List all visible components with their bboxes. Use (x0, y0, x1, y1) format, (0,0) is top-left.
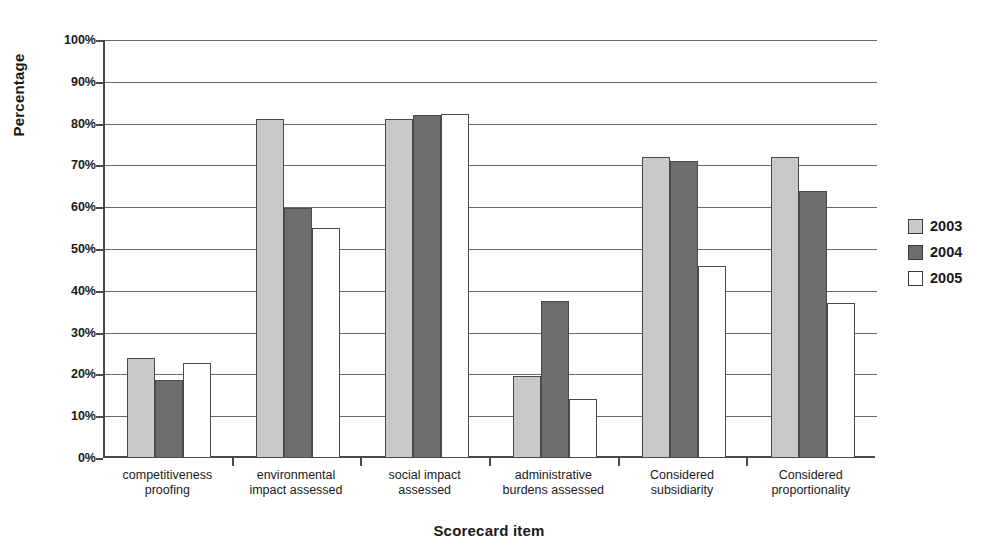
bar-2004-5 (799, 191, 827, 458)
y-axis-tick-label: 50% (42, 242, 96, 256)
bar-2005-0 (183, 363, 211, 458)
bar-2004-3 (541, 301, 569, 458)
legend-item-label: 2005 (930, 270, 962, 286)
y-axis-tick-label: 70% (42, 158, 96, 172)
legend-item-2004[interactable]: 2004 (908, 239, 997, 265)
y-axis-tick-mark (96, 249, 103, 251)
bar-2005-1 (312, 228, 340, 458)
y-axis-tick-label: 0% (42, 451, 96, 465)
y-axis-tick-mark (96, 416, 103, 418)
bars-layer (105, 40, 877, 458)
bar-2003-1 (256, 119, 284, 458)
y-axis-tick-label: 10% (42, 409, 96, 423)
bar-2005-2 (441, 114, 469, 458)
x-axis-category-label: competitiveness proofing (97, 468, 238, 498)
legend-swatch-icon (908, 245, 923, 260)
y-axis-tick-label: 100% (42, 33, 96, 47)
y-axis-tick-mark (96, 40, 103, 42)
bar-2005-4 (698, 266, 726, 458)
x-axis-tick-mark (489, 458, 491, 466)
y-axis-tick-label: 20% (42, 367, 96, 381)
bar-2004-1 (284, 208, 312, 458)
x-axis-title: Scorecard item (103, 522, 875, 539)
x-axis-category-label: administrative burdens assessed (483, 468, 624, 498)
x-axis-tick-mark (360, 458, 362, 466)
bar-2004-2 (413, 115, 441, 458)
legend-item-2003[interactable]: 2003 (908, 213, 997, 239)
bar-2004-0 (155, 380, 183, 458)
y-axis-tick-mark (96, 165, 103, 167)
bar-chart: Percentage 0%10%20%30%40%50%60%70%80%90%… (0, 0, 997, 560)
y-axis-tick-label: 30% (42, 326, 96, 340)
legend-swatch-icon (908, 271, 923, 286)
y-axis-tick-mark (96, 291, 103, 293)
x-axis-category-label: Considered proportionality (740, 468, 881, 498)
x-axis-tick-mark (232, 458, 234, 466)
plot-area (103, 40, 875, 458)
y-axis-tick-mark (96, 82, 103, 84)
y-axis-tick-mark (96, 333, 103, 335)
y-axis-tick-mark (96, 458, 103, 460)
bar-2005-3 (569, 399, 597, 458)
x-axis-tick-mark (618, 458, 620, 466)
x-axis-category-label: Considered subsidiarity (612, 468, 753, 498)
bar-2005-5 (827, 303, 855, 458)
y-axis-tick-label: 90% (42, 75, 96, 89)
bar-2004-4 (670, 161, 698, 458)
legend-item-label: 2004 (930, 244, 962, 260)
bar-2003-5 (771, 157, 799, 458)
legend-item-label: 2003 (930, 218, 962, 234)
bar-2003-0 (127, 358, 155, 458)
x-axis-category-label: environmental impact assessed (226, 468, 367, 498)
y-axis-tick-group: 0%10%20%30%40%50%60%70%80%90%100% (0, 0, 96, 560)
y-axis-tick-mark (96, 207, 103, 209)
legend-item-2005[interactable]: 2005 (908, 265, 997, 291)
x-axis-category-label: social impact assessed (354, 468, 495, 498)
y-axis-tick-label: 40% (42, 284, 96, 298)
bar-2003-4 (642, 157, 670, 458)
legend: 200320042005 (908, 213, 997, 291)
y-axis-tick-mark (96, 124, 103, 126)
y-axis-tick-label: 80% (42, 117, 96, 131)
legend-swatch-icon (908, 219, 923, 234)
y-axis-tick-label: 60% (42, 200, 96, 214)
y-axis-tick-mark (96, 374, 103, 376)
bar-2003-3 (513, 376, 541, 458)
x-axis-tick-mark (746, 458, 748, 466)
bar-2003-2 (385, 119, 413, 458)
